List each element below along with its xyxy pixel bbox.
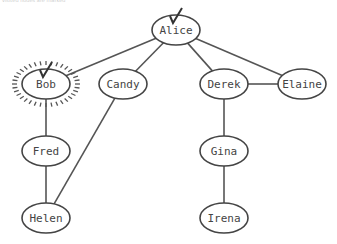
node-elaine[interactable]: Elaine (278, 69, 326, 99)
node-label: Candy (106, 78, 139, 91)
node-irena[interactable]: Irena (200, 203, 248, 233)
node-label: Bob (36, 78, 56, 91)
node-fred[interactable]: Fred (22, 136, 70, 166)
graph-diagram: AliceBobCandyDerekElaineFredGinaHelenIre… (0, 0, 337, 244)
node-label: Derek (207, 78, 240, 91)
node-label: Gina (211, 145, 238, 158)
node-gina[interactable]: Gina (200, 136, 248, 166)
node-label: Fred (33, 145, 60, 158)
node-label: Helen (29, 212, 62, 225)
node-label: Irena (207, 212, 240, 225)
node-candy[interactable]: Candy (99, 69, 147, 99)
node-alice[interactable]: Alice (152, 8, 200, 45)
edge-alice-candy (136, 43, 164, 71)
node-helen[interactable]: Helen (22, 203, 70, 233)
node-derek[interactable]: Derek (200, 69, 248, 99)
edge-alice-elaine (196, 38, 282, 75)
edge-alice-bob (66, 38, 156, 75)
node-label: Elaine (282, 78, 322, 91)
node-label: Alice (159, 24, 192, 37)
edge-alice-derek (188, 43, 213, 71)
